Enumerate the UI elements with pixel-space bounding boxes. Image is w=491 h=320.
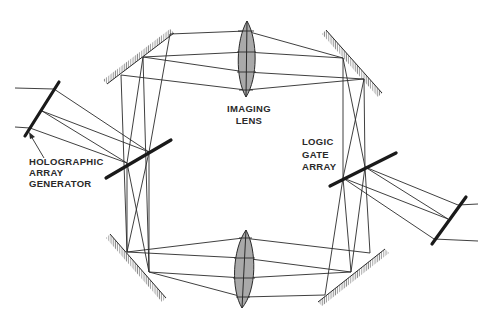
- input-plate: [25, 82, 59, 136]
- label-line: IMAGING: [226, 103, 272, 115]
- output-plate: [432, 197, 466, 244]
- mirror-bottom-right: [318, 249, 389, 306]
- imaging-lens-top: [237, 21, 256, 97]
- label-holographic-array-generator: HOLOGRAPHIC ARRAY GENERATOR: [29, 157, 104, 189]
- mirror-top-right: [322, 30, 382, 97]
- label-line: LENS: [226, 115, 272, 127]
- imaging-lens-bottom: [233, 230, 255, 308]
- label-imaging-lens: IMAGING LENS: [226, 103, 272, 127]
- label-line: LOGIC: [302, 136, 336, 149]
- arrow-icon: [29, 132, 44, 158]
- label-line: ARRAY: [302, 161, 336, 174]
- label-line: GENERATOR: [29, 179, 104, 190]
- mirror-top-left: [103, 29, 174, 84]
- label-line: GATE: [302, 149, 336, 162]
- label-logic-gate-array: LOGIC GATE ARRAY: [302, 136, 336, 174]
- label-line: ARRAY: [29, 168, 104, 179]
- mirror-bottom-left: [106, 234, 166, 302]
